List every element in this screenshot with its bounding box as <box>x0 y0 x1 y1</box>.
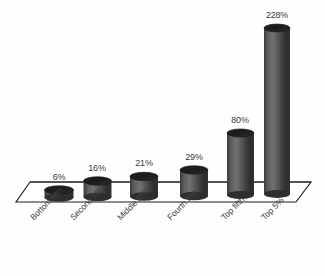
value-label-fourth-fifth: 29% <box>185 152 202 162</box>
value-label-second-fifth: 16% <box>88 163 105 173</box>
bar-top-fifth[interactable] <box>227 129 254 199</box>
value-label-middle-fifth: 21% <box>135 158 152 168</box>
value-label-top-5-percent: 228% <box>266 10 288 20</box>
chart-container: 6% 16% 21% 29% 80% 228% Bottom fifth Sec… <box>0 0 325 276</box>
chart-plot-area <box>0 0 325 276</box>
value-label-bottom-fifth: 6% <box>53 172 66 182</box>
bar-top-5-percent[interactable] <box>264 24 290 198</box>
value-label-top-fifth: 80% <box>231 115 248 125</box>
